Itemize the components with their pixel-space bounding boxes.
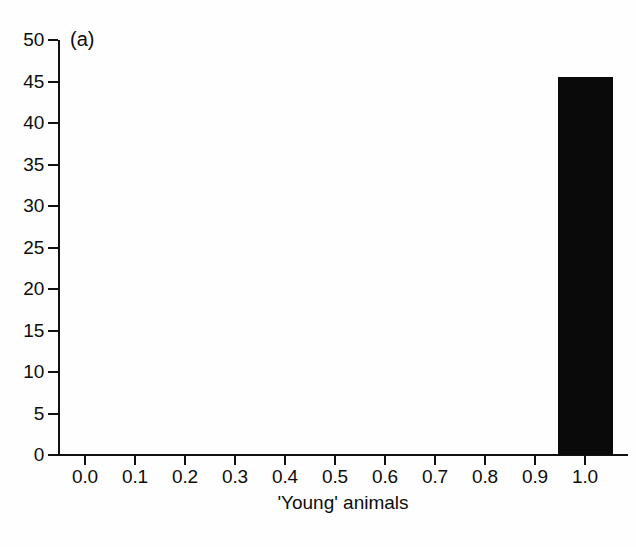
y-axis-tick-label-wrap: 20 (0, 279, 44, 298)
x-axis-tick (184, 456, 186, 465)
y-axis-tick-label-wrap: 30 (0, 196, 44, 215)
histogram-figure: (a) 05101520253035404550 0.00.10.20.30.4… (0, 0, 636, 547)
x-axis-tick (534, 456, 536, 465)
y-axis-tick-label: 35 (0, 155, 44, 174)
x-axis-spine (58, 454, 628, 456)
y-axis-tick-label: 20 (0, 279, 44, 298)
y-axis-tick-label-wrap: 10 (0, 362, 44, 381)
y-axis-tick-label: 30 (0, 196, 44, 215)
y-axis-tick (48, 39, 58, 41)
y-axis-tick-label-wrap: 15 (0, 321, 44, 340)
y-axis-tick-label-wrap: 35 (0, 155, 44, 174)
y-axis-tick-label: 45 (0, 72, 44, 91)
y-axis-tick-label-wrap: 40 (0, 113, 44, 132)
x-axis-tick (284, 456, 286, 465)
x-axis-tick (84, 456, 86, 465)
y-axis-tick-label: 0 (0, 445, 44, 464)
panel-label: (a) (70, 28, 94, 50)
y-axis-tick-label: 5 (0, 404, 44, 423)
y-axis-spine (58, 40, 60, 456)
y-axis-tick (48, 205, 58, 207)
x-axis-tick-label-wrap: 1.0 (555, 466, 615, 488)
x-axis-title: 'Young' animals (58, 492, 628, 514)
y-axis-tick (48, 247, 58, 249)
x-axis-tick (434, 456, 436, 465)
y-axis-tick (48, 454, 58, 456)
y-axis-tick-label-wrap: 25 (0, 238, 44, 257)
x-axis-tick (334, 456, 336, 465)
y-axis-tick-label: 15 (0, 321, 44, 340)
x-axis-tick (134, 456, 136, 465)
y-axis-tick (48, 81, 58, 83)
y-axis-tick-label: 40 (0, 113, 44, 132)
y-axis-tick (48, 288, 58, 290)
y-axis-tick (48, 371, 58, 373)
y-axis-tick (48, 413, 58, 415)
y-axis-tick (48, 330, 58, 332)
x-axis-tick (384, 456, 386, 465)
y-axis-tick-label-wrap: 5 (0, 404, 44, 423)
y-axis-tick (48, 164, 58, 166)
x-axis-tick (584, 456, 586, 465)
x-axis-tick-label: 1.0 (555, 466, 615, 488)
y-axis-tick (48, 122, 58, 124)
x-axis-tick (484, 456, 486, 465)
histogram-bar (558, 77, 613, 455)
y-axis-tick-label: 25 (0, 238, 44, 257)
y-axis-tick-label-wrap: 50 (0, 30, 44, 49)
x-axis-tick (234, 456, 236, 465)
y-axis-tick-label: 50 (0, 30, 44, 49)
y-axis-tick-label: 10 (0, 362, 44, 381)
y-axis-tick-label-wrap: 0 (0, 445, 44, 464)
y-axis-tick-label-wrap: 45 (0, 72, 44, 91)
